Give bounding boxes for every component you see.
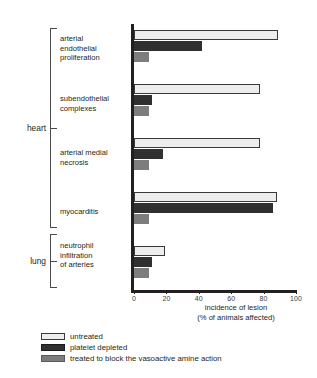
category-label-line: myocarditis	[60, 207, 130, 217]
legend-item-platelet-depleted: platelet depleted	[41, 342, 222, 353]
x-axis-title-line2: (% of animals affected)	[160, 313, 312, 323]
category-label-line: neutrophil	[60, 241, 130, 251]
category-label-line: endothelial	[60, 44, 130, 54]
bar	[134, 106, 149, 116]
bar	[134, 138, 260, 148]
x-tick-label: 60	[227, 295, 235, 302]
legend: untreated platelet depleted treated to b…	[41, 331, 222, 364]
x-tick-label: 20	[162, 295, 170, 302]
legend-swatch-platelet-depleted	[41, 344, 65, 352]
bar	[134, 84, 260, 94]
legend-swatch-amine-blocked	[41, 355, 65, 363]
bar	[134, 257, 152, 267]
category-label-line: subendothelial	[60, 94, 130, 104]
category-label-line: complexes	[60, 104, 130, 114]
legend-label-untreated: untreated	[70, 332, 103, 341]
legend-item-untreated: untreated	[41, 331, 222, 342]
bar	[134, 95, 152, 105]
legend-swatch-untreated	[41, 333, 65, 341]
category-label-line: proliferation	[60, 53, 130, 63]
category-label-arterial-medial-necrosis: arterial medial necrosis	[60, 148, 130, 167]
category-label-line: arterial medial	[60, 148, 130, 158]
x-tick-label: 40	[195, 295, 203, 302]
x-axis-title-line1: incidence of lesion	[160, 303, 312, 313]
category-label-neutrophil-infiltration-of-arteries: neutrophil infiltration of arteries	[60, 241, 130, 270]
bar	[134, 214, 149, 224]
chart-figure: heart lung arterial endothelial prolifer…	[0, 0, 317, 378]
category-label-line: of arteries	[60, 260, 130, 270]
organ-label-heart: heart	[8, 123, 46, 133]
x-tick	[166, 290, 167, 294]
legend-item-amine-blocked: treated to block the vasoactive amine ac…	[41, 353, 222, 364]
bar	[134, 41, 202, 51]
category-label-line: necrosis	[60, 158, 130, 168]
x-tick-label: 100	[290, 295, 302, 302]
x-tick	[231, 290, 232, 294]
x-axis-line	[131, 290, 296, 293]
bar	[134, 160, 149, 170]
category-label-myocarditis: myocarditis	[60, 207, 130, 217]
x-tick	[296, 290, 297, 294]
bar	[134, 246, 165, 256]
bar	[134, 30, 278, 40]
legend-label-platelet-depleted: platelet depleted	[70, 343, 127, 352]
bar	[134, 203, 273, 213]
legend-label-amine-blocked: treated to block the vasoactive amine ac…	[70, 354, 222, 363]
x-tick	[264, 290, 265, 294]
bar	[134, 52, 149, 62]
category-label-line: arterial	[60, 34, 130, 44]
x-axis-title: incidence of lesion (% of animals affect…	[160, 303, 312, 322]
category-label-subendothelial-complexes: subendothelial complexes	[60, 94, 130, 113]
x-tick-label: 0	[132, 295, 136, 302]
organ-label-lung: lung	[8, 256, 46, 266]
bar	[134, 149, 163, 159]
bar	[134, 192, 277, 202]
x-tick-label: 80	[260, 295, 268, 302]
category-label-line: infiltration	[60, 251, 130, 261]
plot-area: 020406080100	[134, 24, 296, 290]
bar	[134, 268, 149, 278]
x-tick	[134, 290, 135, 294]
category-label-arterial-endothelial-proliferation: arterial endothelial proliferation	[60, 34, 130, 63]
x-tick	[199, 290, 200, 294]
